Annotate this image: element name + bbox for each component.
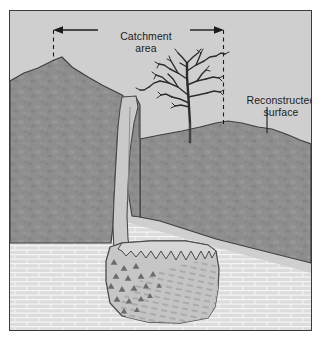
figure-root: Catchment area Reconstructed surface bbox=[0, 0, 323, 343]
reconstructed-surface-label: Reconstructed surface bbox=[235, 95, 312, 118]
reconstructed-label-line2: surface bbox=[263, 106, 298, 118]
catchment-label-line2: area bbox=[135, 42, 156, 54]
cross-section-svg bbox=[10, 11, 311, 330]
diagram-frame: Catchment area Reconstructed surface bbox=[9, 10, 312, 331]
catchment-label: Catchment area bbox=[96, 31, 196, 54]
reconstructed-label-line1: Reconstructed bbox=[246, 94, 312, 106]
catchment-label-line1: Catchment bbox=[120, 30, 172, 42]
